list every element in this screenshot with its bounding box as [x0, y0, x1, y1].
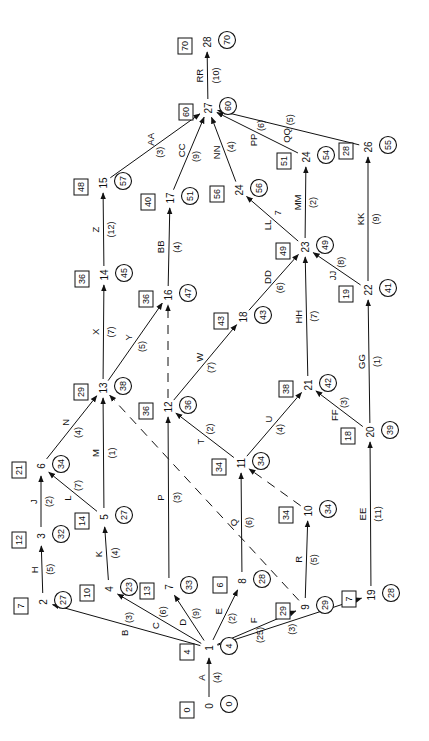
activity-duration: (3) [339, 397, 349, 408]
activity-arrow-ee: EE(11) [357, 442, 383, 586]
event-node: 154857 [74, 173, 132, 196]
activity-label: KK [355, 212, 366, 225]
earliest-time: 60 [181, 107, 191, 117]
earliest-time: 40 [143, 197, 153, 207]
earliest-time: 29 [76, 387, 86, 397]
activity-label: B [119, 630, 130, 636]
activity-arrow-qq: QQ(5) [218, 110, 360, 145]
activity-label: AA [145, 132, 156, 145]
earliest-time: 43 [216, 316, 226, 326]
activity-label: NN [211, 145, 222, 159]
activity-arrow-jj: JJ(8) [313, 253, 360, 285]
activity-label: F [248, 617, 259, 623]
event-number: 21 [303, 379, 314, 391]
activity-arrow-l: L(7) [49, 472, 97, 511]
event-number: 27 [203, 102, 214, 114]
activity-label: HH [293, 310, 304, 324]
activity-duration: (3) [155, 147, 165, 158]
event-number: 2 [38, 599, 49, 605]
event-node: 221941 [339, 280, 397, 303]
activity-duration: (7) [206, 362, 216, 373]
event-node: 163647 [139, 285, 197, 308]
latest-time: 29 [320, 600, 330, 610]
earliest-time: 7 [344, 596, 354, 601]
activity-arrow-nn: NN(4) [211, 117, 236, 181]
activity-duration: (2) [308, 197, 318, 208]
event-number: 11 [236, 457, 247, 468]
event-node: 103434 [279, 501, 337, 524]
activity-duration: (6) [158, 606, 168, 617]
latest-time: 60 [223, 101, 233, 111]
activity-duration: (5) [137, 341, 147, 352]
event-node: 213842 [279, 375, 337, 398]
network-diagram: A(4)B(3)C(6)D(9)E(2)F(25)G(3)H(5)J(2)K(4… [0, 0, 429, 741]
event-node: 143645 [75, 265, 133, 288]
activity-duration: (6) [275, 282, 285, 293]
earliest-time: 14 [77, 516, 87, 526]
activity-duration: (2) [44, 496, 54, 507]
dummy-activity-arrow [249, 469, 301, 506]
activity-label: D [177, 619, 188, 626]
event-number: 6 [36, 463, 47, 469]
latest-time: 28 [386, 588, 396, 598]
activity-label: DD [262, 270, 273, 284]
earliest-time: 4 [182, 649, 192, 654]
latest-time: 70 [222, 35, 232, 45]
earliest-time: 48 [76, 182, 86, 192]
activity-label: GG [356, 354, 367, 369]
activity-label: K [93, 550, 104, 557]
activity-arrow-t: T(2) [176, 413, 234, 457]
activity-duration: (7) [106, 327, 116, 338]
event-number: 22 [363, 284, 374, 296]
activity-duration: (9) [191, 151, 201, 162]
event-node: 245154 [277, 147, 335, 170]
latest-time: 38 [118, 381, 128, 391]
activity-label: FF [329, 409, 340, 421]
activity-arrow-a: A(4) [196, 658, 223, 697]
event-node: 31232 [12, 526, 70, 549]
activity-arrow-r: R(5) [293, 521, 319, 598]
earliest-time: 38 [281, 384, 291, 394]
activity-arrow-k: K(4) [93, 527, 119, 580]
activity-label: R [293, 556, 304, 563]
activity-duration: (4) [275, 424, 285, 435]
activity-label: C [150, 622, 161, 629]
latest-time: 57 [118, 176, 128, 186]
activity-label: E [213, 608, 224, 614]
event-number: 15 [98, 177, 109, 189]
earliest-time: 12 [14, 535, 24, 545]
activity-label: A [196, 674, 207, 681]
activity-duration: (5) [285, 114, 295, 125]
event-number: 19 [366, 589, 377, 601]
activity-duration: (3) [172, 492, 182, 503]
event-node: 144 [180, 638, 238, 661]
activity-duration: 7 [273, 210, 283, 215]
activity-label: PP [248, 134, 259, 147]
event-node: 287070 [178, 32, 236, 55]
event-node: 71333 [140, 577, 198, 600]
event-number: 0 [204, 703, 215, 709]
earliest-time: 18 [343, 431, 353, 441]
earliest-time: 70 [180, 41, 190, 51]
activity-duration: (3) [124, 612, 134, 623]
event-node: 113434 [212, 453, 270, 476]
event-node: 41023 [80, 579, 138, 602]
latest-time: 4 [224, 643, 234, 648]
earliest-time: 56 [212, 189, 222, 199]
event-number: 8 [237, 578, 248, 584]
activity-arrow-h: H(5) [29, 546, 55, 593]
activity-arrow-cc: CC(9) [174, 117, 205, 189]
latest-time: 34 [323, 504, 333, 514]
nodes-layer: 0001442727312324102351427621347133386289… [12, 32, 400, 719]
event-node: 132938 [74, 378, 132, 401]
activity-label: P [155, 494, 166, 500]
latest-time: 55 [383, 140, 393, 150]
earliest-time: 0 [182, 707, 192, 712]
event-node: 92929 [276, 597, 334, 620]
latest-time: 0 [224, 701, 234, 706]
earliest-time: 51 [279, 156, 289, 166]
activity-label: BB [155, 240, 166, 253]
activity-duration: (7) [73, 480, 83, 491]
event-node: 262855 [339, 137, 397, 160]
event-number: 24 [301, 151, 312, 163]
